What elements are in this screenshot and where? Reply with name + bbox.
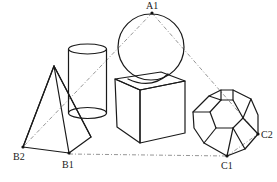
point-b2	[21, 145, 24, 148]
point-c1	[225, 154, 228, 157]
pyramid	[23, 66, 91, 153]
point-b1	[67, 151, 70, 154]
point-a1	[150, 11, 153, 14]
sphere	[118, 14, 184, 80]
line-a1-b2	[23, 13, 152, 147]
cube	[115, 72, 185, 143]
label-b1: B1	[62, 159, 74, 170]
geometry-diagram: A1 B2 B1 C1 C2	[0, 0, 277, 182]
label-c2: C2	[261, 129, 273, 140]
dodecahedron	[193, 90, 258, 156]
cylinder	[69, 44, 107, 119]
labels: A1 B2 B1 C1 C2	[13, 0, 273, 171]
label-c1: C1	[221, 160, 233, 171]
label-b2: B2	[13, 151, 25, 162]
point-c2	[256, 132, 259, 135]
label-a1: A1	[146, 0, 158, 11]
line-b1-c1	[69, 154, 227, 156]
